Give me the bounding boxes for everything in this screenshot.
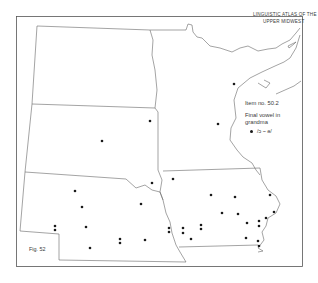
isle-royale bbox=[288, 42, 296, 48]
dialect-map bbox=[0, 0, 318, 283]
map-frame bbox=[17, 17, 303, 267]
atlas-title-line1: LINGUISTIC ATLAS OF THE bbox=[253, 12, 317, 17]
mn-ia-boundary bbox=[163, 168, 260, 171]
item-description-line1: Final vowel in bbox=[245, 112, 280, 118]
figure-label: Fig. 52 bbox=[29, 246, 45, 252]
dot-symbol-icon bbox=[250, 130, 253, 133]
item-description-line2: grandma bbox=[245, 119, 268, 125]
lake-superior-north bbox=[282, 28, 300, 44]
data-points bbox=[54, 83, 276, 250]
wisconsin-shore bbox=[258, 80, 301, 94]
mississippi-river bbox=[258, 168, 280, 252]
nd-north-boundary bbox=[37, 26, 150, 30]
lake-superior-shore bbox=[238, 35, 300, 88]
ia-mo-boundary bbox=[179, 245, 258, 247]
item-number: Item no. 50.2 bbox=[245, 100, 279, 106]
atlas-title-line2: UPPER MIDWEST bbox=[263, 19, 304, 24]
nd-sd-boundary bbox=[32, 104, 155, 108]
legend-label: /ɔ ~ ə/ bbox=[257, 128, 272, 134]
red-river bbox=[150, 30, 158, 112]
sd-ne-boundary bbox=[25, 172, 163, 200]
missouri-river bbox=[158, 112, 186, 262]
mn-north-boundary bbox=[150, 24, 282, 52]
western-boundary bbox=[20, 26, 37, 231]
legend-entry: /ɔ ~ ə/ bbox=[250, 128, 272, 134]
